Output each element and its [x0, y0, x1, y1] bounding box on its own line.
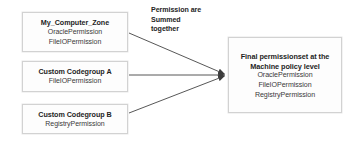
- node-custom-codegroup-b[interactable]: Custom Codegroup B RegistryPermission: [22, 104, 128, 134]
- node-permission: FileIOPermission: [49, 37, 102, 46]
- node-title: My_Computer_Zone: [41, 18, 109, 27]
- node-permission: OraclePermission: [48, 27, 102, 36]
- node-title: Custom Codegroup B: [38, 110, 111, 119]
- arrow-custom-codegroup-b-to-final: [129, 76, 225, 113]
- diagram-canvas: My_Computer_Zone OraclePermission FileIO…: [0, 0, 353, 143]
- node-custom-codegroup-a[interactable]: Custom Codegroup A FileIOPermission: [22, 61, 128, 92]
- node-title-line-1: Final permissionset at the: [241, 52, 330, 62]
- annotation-line-3: together: [151, 25, 217, 35]
- annotation-line-1: Permission are: [151, 6, 217, 16]
- node-permission: FileIOPermission: [49, 76, 102, 85]
- annotation-line-2: Summed: [151, 16, 217, 26]
- node-permission: RegistryPermission: [45, 119, 104, 128]
- arrow-my-computer-zone-to-final: [129, 33, 225, 74]
- node-title: Custom Codegroup A: [38, 67, 111, 76]
- node-permission: FileIOPermission: [258, 81, 311, 91]
- node-permission: RegistryPermission: [255, 91, 315, 101]
- node-permission: OraclePermission: [257, 71, 312, 81]
- node-final-permissionset[interactable]: Final permissionset at the Machine polic…: [228, 37, 342, 113]
- annotation-permissions-summed: Permission are Summed together: [151, 6, 217, 35]
- node-my-computer-zone[interactable]: My_Computer_Zone OraclePermission FileIO…: [22, 12, 128, 52]
- node-title-line-2: Machine policy level: [250, 62, 320, 72]
